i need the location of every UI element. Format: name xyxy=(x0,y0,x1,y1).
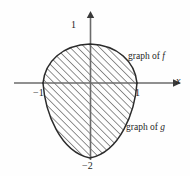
x-tick-label-neg-1: −1 xyxy=(33,88,44,98)
region-hatching xyxy=(0,0,190,176)
y-tick-label-1: 1 xyxy=(71,20,76,30)
annotation-graph-of-f: graph of f xyxy=(128,52,165,62)
annotation-f-symbol: f xyxy=(162,51,165,61)
x-axis-label: x xyxy=(176,76,180,86)
x-tick-label-1: 1 xyxy=(135,88,140,98)
math-figure: 1 −1 1 −2 x graph of f graph of g xyxy=(0,0,190,176)
y-axis-arrowhead xyxy=(87,11,94,18)
annotation-g-symbol: g xyxy=(160,122,165,132)
plot-canvas xyxy=(0,0,190,176)
shaded-region xyxy=(0,0,190,176)
annotation-f-prefix: graph of xyxy=(128,51,162,61)
y-tick-label-neg-2: −2 xyxy=(82,161,93,171)
annotation-g-prefix: graph of xyxy=(126,122,160,132)
annotation-graph-of-g: graph of g xyxy=(126,123,165,133)
